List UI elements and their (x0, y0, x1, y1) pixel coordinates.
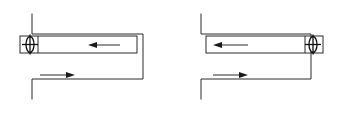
upper-motion-arrow-head (88, 42, 97, 48)
right-panel (201, 14, 323, 99)
right-panel-c-channel-outline (201, 14, 311, 99)
lower-motion-arrow-head (66, 72, 75, 78)
left-panel-pivot-symbol (22, 35, 38, 55)
left-panel-c-channel-outline (32, 14, 143, 99)
left-panel-upper-motion-arrow (88, 42, 120, 48)
right-panel-pivot-symbol (305, 35, 321, 55)
left-panel (20, 14, 143, 99)
right-panel-upper-motion-arrow (213, 42, 248, 48)
right-panel-lower-motion-arrow (213, 72, 248, 78)
upper-motion-arrow-head (213, 42, 222, 48)
lower-motion-arrow-head (239, 72, 248, 78)
technical-diagram-figure (0, 0, 340, 134)
diagram-canvas (0, 0, 340, 134)
left-panel-lower-motion-arrow (40, 72, 75, 78)
